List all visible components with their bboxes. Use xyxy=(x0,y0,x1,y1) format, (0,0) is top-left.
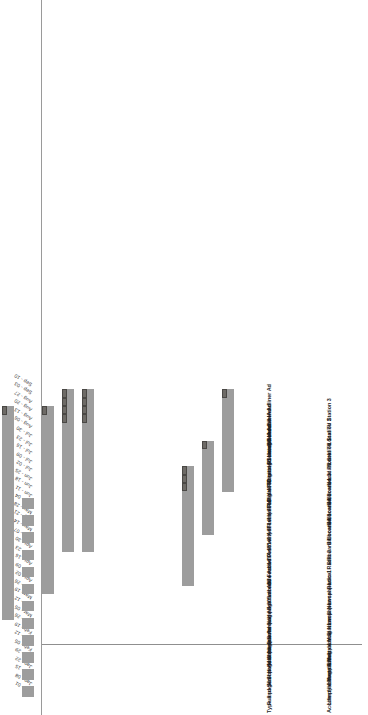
gantt-bar-cap xyxy=(222,389,227,397)
header-divider xyxy=(42,644,362,645)
gantt-bar-cap xyxy=(82,398,87,406)
gantt-bar-cap xyxy=(202,441,207,449)
gantt-bar xyxy=(42,406,55,594)
gantt-bar-segment xyxy=(22,669,35,680)
gantt-bar-cap xyxy=(182,466,187,474)
gantt-bar-cap xyxy=(42,406,47,414)
gantt-bar-segment xyxy=(22,498,35,509)
gantt-bar-segment xyxy=(22,532,35,543)
chart-plot-area: Jan - 01Jan - 08Jan - 15Jan - 22Jan - 29… xyxy=(0,0,368,715)
gantt-bar-cap xyxy=(62,389,67,397)
gantt-bar-segment xyxy=(22,601,35,612)
row-label-type: 30 second Headliner Ad xyxy=(266,384,273,445)
gantt-bar-segment xyxy=(22,652,35,663)
gantt-bar xyxy=(2,406,15,620)
gantt-bar-segment xyxy=(22,584,35,595)
gantt-bar-cap xyxy=(62,414,67,422)
row-label-name: Local TV Station 3 xyxy=(326,398,333,445)
gantt-bar xyxy=(202,441,215,535)
gantt-bar-segment xyxy=(22,567,35,578)
gantt-bar-segment xyxy=(22,515,35,526)
gantt-bar-cap xyxy=(62,406,67,414)
gantt-bar-cap xyxy=(82,414,87,422)
gantt-bar-cap xyxy=(2,406,7,414)
gantt-bar-segment xyxy=(22,550,35,561)
gantt-bar-cap xyxy=(82,406,87,414)
row-label-table: Accomplishment NameType and Size of Adve… xyxy=(228,0,368,715)
gantt-bar-cap xyxy=(182,483,187,491)
gantt-bar-cap xyxy=(182,475,187,483)
gantt-bar-cap xyxy=(82,389,87,397)
gantt-bar-cap xyxy=(62,398,67,406)
gantt-bar-segment xyxy=(22,686,35,697)
gantt-chart-canvas: Jan - 01Jan - 08Jan - 15Jan - 22Jan - 29… xyxy=(0,0,368,715)
gantt-bar-segment xyxy=(22,618,35,629)
gantt-bar-segment xyxy=(22,635,35,646)
